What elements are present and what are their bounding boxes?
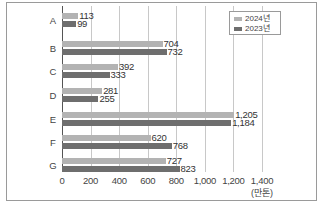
bar-2023 [62,96,98,102]
x-tick-label: 1,200 [222,175,244,186]
bar-2024 [62,88,102,94]
x-tick-label: 1,000 [194,175,216,186]
legend-swatch-2023 [234,27,242,31]
x-tick-label: 200 [83,175,98,186]
bar-group-c: C392333 [62,63,262,81]
bar-group-b: B704732 [62,40,262,58]
value-label: 1,184 [232,119,254,127]
x-tick-label: 1,400 [251,175,273,186]
x-axis-unit-label: (만톤) [251,186,273,199]
bar-2024 [62,13,78,19]
x-tick-label: 800 [169,175,184,186]
bar-2023 [62,166,180,172]
bar-2023 [62,143,172,149]
bar-2023 [62,21,76,27]
category-label: B [48,43,58,54]
bar-2024 [62,112,234,118]
category-label: G [48,160,58,171]
legend-item-2024: 2024년 [234,15,270,23]
bar-group-d: D281255 [62,87,262,105]
legend: 2024년 2023년 [229,11,281,35]
bar-2024 [62,135,151,141]
value-label: 823 [181,165,196,173]
bar-2024 [62,41,163,47]
legend-swatch-2024 [234,17,242,21]
category-label: A [48,15,58,26]
value-label: 333 [111,71,126,79]
value-label: 620 [152,134,167,142]
category-label: F [48,137,58,148]
bar-group-e: E1,2051,184 [62,111,262,129]
value-label: 99 [77,20,87,28]
bar-group-f: F620768 [62,134,262,152]
bar-2024 [62,158,166,164]
category-label: D [48,90,58,101]
value-label: 768 [173,142,188,150]
x-tick-label: 600 [140,175,155,186]
legend-label: 2024년 [245,14,270,23]
bar-2023 [62,72,110,78]
value-label: 727 [167,157,182,165]
x-tick-label: 0 [60,175,65,186]
value-label: 732 [168,48,183,56]
category-label: E [48,114,58,125]
bar-2024 [62,64,118,70]
bar-2023 [62,120,231,126]
category-label: C [48,66,58,77]
bar-2023 [62,49,167,55]
legend-item-2023: 2023년 [234,25,270,33]
legend-label: 2023년 [245,24,270,33]
value-label: 255 [99,95,114,103]
bar-group-g: G727823 [62,157,262,175]
x-tick-label: 400 [112,175,127,186]
